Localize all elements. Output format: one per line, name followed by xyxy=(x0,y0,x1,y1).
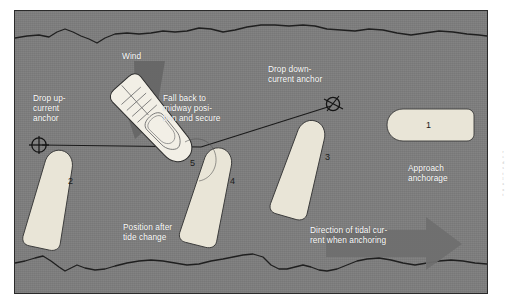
approach-anchorage-label: Approach anchorage xyxy=(408,163,448,183)
fall-back-label: Fall back to midway posi- tion and secur… xyxy=(163,93,220,124)
boat-number-4: 4 xyxy=(230,177,235,186)
position-after-tide-change-label: Position after tide change xyxy=(123,222,172,242)
drop-up-current-anchor-label: Drop up- current anchor xyxy=(33,93,66,124)
figure-page: Wind Drop up- current anchor Fall back t… xyxy=(0,0,505,305)
top-shoreline-path xyxy=(15,25,487,43)
boat-2-shape xyxy=(21,146,79,252)
boat-number-5: 5 xyxy=(190,159,195,168)
page-edge-text: r e d s t l a n t xyxy=(502,150,504,199)
boat-number-3: 3 xyxy=(325,153,330,162)
anchoring-diagram: Wind Drop up- current anchor Fall back t… xyxy=(14,10,488,294)
drop-down-current-anchor-label: Drop down- current anchor xyxy=(268,64,322,84)
down-current-anchor-icon xyxy=(324,96,343,111)
boat-number-1: 1 xyxy=(426,121,431,130)
boat-4-shape xyxy=(178,143,239,249)
boat-3-shape xyxy=(268,115,332,222)
direction-of-tidal-current-label: Direction of tidal cur- rent when anchor… xyxy=(310,225,387,245)
boat-number-2: 2 xyxy=(68,177,73,186)
diagram-vector-layer xyxy=(15,11,487,293)
up-current-anchor-icon xyxy=(29,136,49,154)
wind-label: Wind xyxy=(122,51,141,61)
